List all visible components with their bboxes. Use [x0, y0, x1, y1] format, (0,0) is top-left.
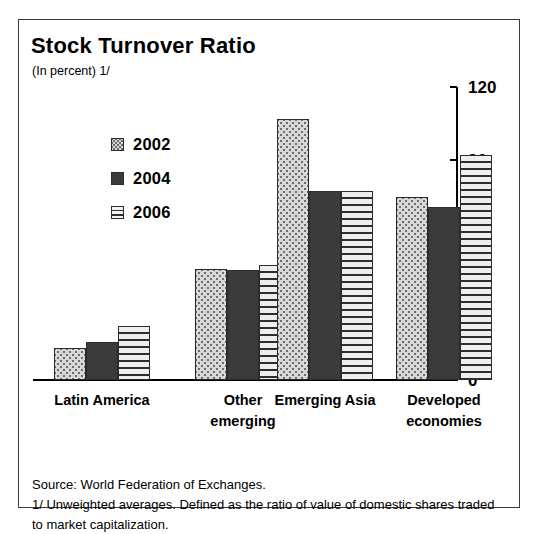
- bar-2004-emerging-asia: [309, 191, 341, 380]
- y-tick-120: [450, 86, 457, 88]
- dotted-swatch-icon: [111, 138, 124, 151]
- x-label-line1: Developed: [369, 390, 519, 411]
- x-label-latin-america: Latin America: [27, 390, 177, 411]
- x-label-developed-economies: Developedeconomies: [369, 390, 519, 431]
- footer-source: Source: World Federation of Exchanges.: [32, 475, 502, 495]
- y-tick-90: [450, 159, 457, 161]
- plot-area: 0306090120 Latin AmericaOtheremergingEme…: [19, 20, 521, 509]
- solid-swatch-icon: [111, 172, 124, 185]
- x-label-line2: emerging: [168, 411, 318, 432]
- x-label-line1: Latin America: [27, 390, 177, 411]
- legend-label-2006: 2006: [133, 203, 171, 222]
- hatched-swatch-icon: [111, 206, 124, 219]
- chart-legend: 2002 2004 2006: [111, 127, 171, 229]
- legend-item-2002: 2002: [111, 127, 171, 161]
- footer-footnote: 1/ Unweighted averages. Defined as the r…: [32, 495, 502, 534]
- bar-2002-developed-economies: [396, 197, 428, 380]
- bar-2004-latin-america: [86, 342, 118, 380]
- y-tick-label-120: 120: [468, 79, 496, 96]
- x-label-line2: economies: [369, 411, 519, 432]
- bar-2006-developed-economies: [460, 155, 492, 380]
- bar-2006-latin-america: [118, 326, 150, 380]
- chart-footer: Source: World Federation of Exchanges. 1…: [32, 475, 502, 534]
- legend-item-2006: 2006: [111, 195, 171, 229]
- bar-2004-developed-economies: [428, 207, 460, 380]
- legend-label-2002: 2002: [133, 135, 171, 154]
- legend-label-2004: 2004: [133, 169, 171, 188]
- bar-2002-other-emerging: [195, 269, 227, 380]
- chart-figure: Stock Turnover Ratio (In percent) 1/ 030…: [18, 19, 520, 508]
- legend-item-2004: 2004: [111, 161, 171, 195]
- bar-2006-emerging-asia: [341, 191, 373, 380]
- bar-2002-latin-america: [54, 348, 86, 380]
- bar-2002-emerging-asia: [277, 119, 309, 380]
- bar-2004-other-emerging: [227, 270, 259, 380]
